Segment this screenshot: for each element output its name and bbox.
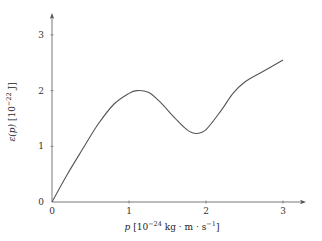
axes (50, 13, 306, 204)
x-tick-label: 1 (126, 206, 132, 216)
y-tick-label: 1 (38, 141, 44, 151)
x-tick-label: 2 (203, 206, 209, 216)
x-ticks: 0123 (49, 201, 286, 217)
y-ticks: 0123 (38, 30, 53, 207)
data-line (52, 60, 283, 202)
y-tick-label: 3 (38, 30, 44, 40)
y-axis-label: ε(p) [10−22 J] (5, 82, 17, 141)
y-tick-label: 2 (38, 86, 44, 96)
y-tick-label: 0 (38, 197, 44, 207)
x-tick-label: 3 (280, 206, 286, 216)
x-axis-label: p [10−24 kg · m · s−1] (125, 220, 220, 232)
x-tick-label: 0 (49, 206, 55, 216)
chart: 0123 0123 p [10−24 kg · m · s−1] ε(p) [1… (0, 0, 322, 241)
